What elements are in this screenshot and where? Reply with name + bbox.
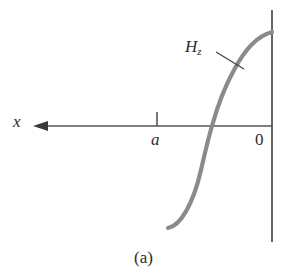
curve-label-hz: Hz bbox=[185, 38, 202, 57]
tick-label-a: a bbox=[151, 131, 160, 148]
figure-plot-area bbox=[0, 0, 287, 277]
origin-label: 0 bbox=[255, 131, 264, 148]
curve-label-subscript: z bbox=[197, 45, 201, 57]
x-axis-arrowhead bbox=[33, 121, 48, 131]
x-axis-label: x bbox=[13, 113, 21, 130]
figure-caption: (a) bbox=[0, 248, 287, 268]
curve-label-symbol: H bbox=[185, 37, 197, 56]
figure-container: x a 0 Hz (a) bbox=[0, 0, 287, 277]
